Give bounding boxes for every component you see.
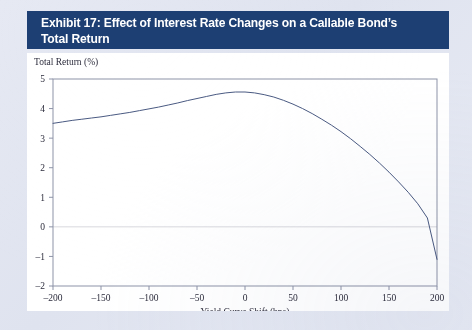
exhibit-title-line-1: Exhibit 17: Effect of Interest Rate Chan…	[41, 15, 435, 31]
svg-text:–150: –150	[91, 293, 111, 303]
svg-text:–100: –100	[139, 293, 159, 303]
line-chart-svg: –2–1012345 –200–150–100–50050100150200 Y…	[27, 53, 449, 311]
exhibit-title-line-2: Total Return	[41, 31, 435, 47]
svg-text:100: 100	[334, 293, 349, 303]
chart-card: Total Return (%) –2–1012345 –200–150–100…	[27, 53, 449, 311]
svg-text:0: 0	[243, 293, 248, 303]
svg-text:0: 0	[40, 222, 45, 232]
svg-text:–200: –200	[43, 293, 63, 303]
y-axis-tick-labels: –2–1012345	[35, 74, 46, 291]
exhibit-title-banner: Exhibit 17: Effect of Interest Rate Chan…	[27, 11, 449, 49]
exhibit-figure: Exhibit 17: Effect of Interest Rate Chan…	[0, 0, 472, 330]
plot-area: –2–1012345 –200–150–100–50050100150200 Y…	[27, 53, 449, 311]
svg-text:4: 4	[40, 104, 45, 114]
svg-text:1: 1	[40, 193, 45, 203]
svg-text:–2: –2	[35, 281, 46, 291]
svg-text:–1: –1	[35, 252, 46, 262]
svg-text:–50: –50	[189, 293, 205, 303]
x-axis-title: Yield Curve Shift (bps)	[201, 307, 290, 311]
svg-text:200: 200	[430, 293, 445, 303]
data-series-lines	[53, 92, 437, 259]
x-axis-tick-labels: –200–150–100–50050100150200	[43, 293, 445, 303]
plot-frame	[53, 79, 437, 286]
svg-text:5: 5	[40, 74, 45, 84]
svg-text:2: 2	[40, 163, 45, 173]
svg-text:Yield Curve Shift (bps): Yield Curve Shift (bps)	[201, 307, 290, 311]
svg-text:50: 50	[288, 293, 298, 303]
axis-ticks	[49, 79, 437, 290]
svg-text:3: 3	[40, 134, 45, 144]
svg-text:150: 150	[382, 293, 397, 303]
